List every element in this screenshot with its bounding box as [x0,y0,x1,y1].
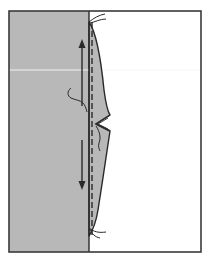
gray-fabric-panel [9,11,89,252]
sewing-diagram [0,0,205,258]
